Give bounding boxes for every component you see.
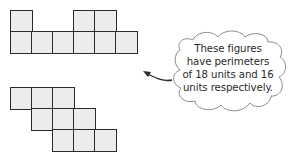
arrow-head-icon	[143, 71, 151, 77]
callout-line-3: of 18 units and 16	[181, 68, 275, 81]
callout-line-4: units respectively.	[181, 81, 275, 94]
callout-text: These figures have perimeters of 18 unit…	[181, 42, 275, 94]
pointer-arrow-icon	[146, 73, 172, 81]
callout-line-1: These figures	[181, 42, 275, 55]
callout-line-2: have perimeters	[181, 55, 275, 68]
